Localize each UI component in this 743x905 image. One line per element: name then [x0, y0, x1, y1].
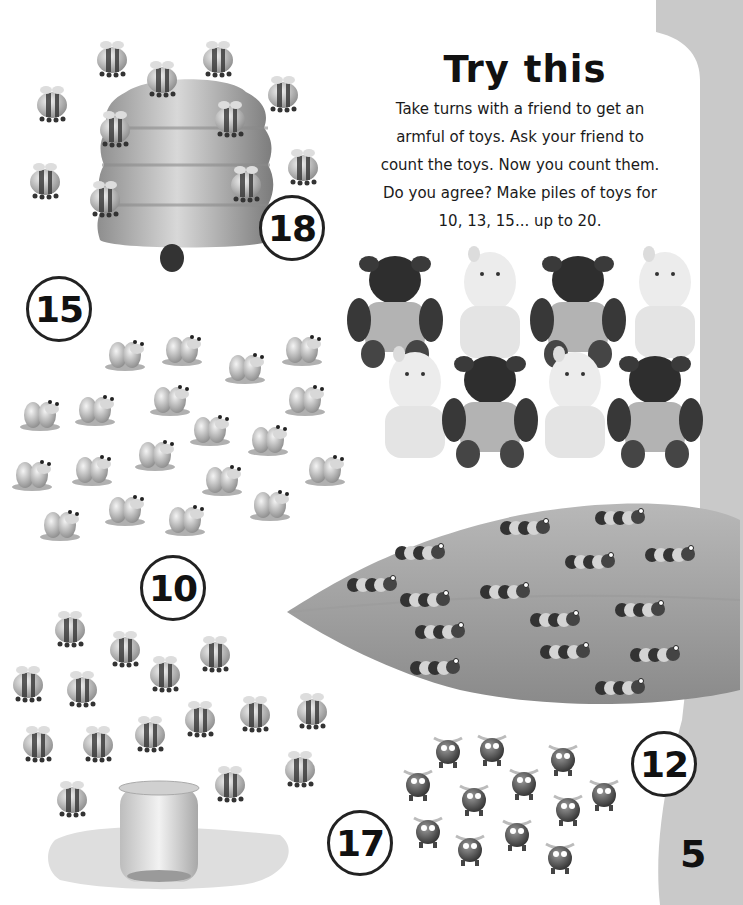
toys-group — [347, 246, 703, 468]
bug — [546, 844, 574, 874]
instruction-line: 10, 13, 15... up to 20. — [370, 207, 670, 235]
bee — [297, 693, 327, 730]
honey-jar — [120, 787, 198, 882]
frog — [72, 455, 112, 486]
try-this-title: Try this — [400, 48, 650, 91]
book-page: Try this Take turns with a friend to get… — [0, 0, 743, 905]
bee — [240, 696, 270, 733]
bee — [203, 41, 233, 78]
bug — [460, 786, 488, 816]
frog — [40, 510, 80, 541]
frog — [75, 395, 115, 426]
bug — [510, 770, 538, 800]
bee — [37, 86, 67, 123]
bee — [215, 766, 245, 803]
toy-cow — [530, 256, 626, 368]
frog — [190, 415, 230, 446]
count-badge-bugs: 17 — [327, 810, 393, 876]
bee — [67, 671, 97, 708]
frog — [105, 495, 145, 526]
count-badge-frogs: 15 — [26, 276, 92, 342]
instruction-line: Do you agree? Make piles of toys for — [370, 179, 670, 207]
frog — [20, 400, 60, 431]
bee — [268, 76, 298, 113]
instruction-line: Take turns with a friend to get an — [370, 95, 670, 123]
frog — [285, 385, 325, 416]
bee — [285, 751, 315, 788]
bee — [200, 636, 230, 673]
toy-hippo — [460, 246, 520, 358]
bug — [456, 836, 484, 866]
count-badge-bees-jar: 10 — [140, 555, 206, 621]
toy-hippo — [385, 346, 445, 458]
frog — [150, 385, 190, 416]
count-badge-caterpillars: 12 — [631, 731, 697, 797]
frog — [248, 425, 288, 456]
bug — [434, 738, 462, 768]
bee — [185, 701, 215, 738]
bee — [97, 41, 127, 78]
frog — [305, 455, 345, 486]
bee — [23, 726, 53, 763]
bee — [13, 666, 43, 703]
bee — [83, 726, 113, 763]
frog — [202, 465, 242, 496]
toy-cow — [607, 356, 703, 468]
bug — [590, 781, 618, 811]
beehive — [97, 79, 274, 247]
bee — [110, 631, 140, 668]
frog — [162, 335, 202, 366]
toy-hippo — [635, 246, 695, 358]
instruction-line: armful of toys. Ask your friend to — [370, 123, 670, 151]
bee — [150, 656, 180, 693]
frog — [282, 335, 322, 366]
bugs-group-17 — [404, 736, 618, 874]
try-this-instructions: Take turns with a friend to get an armfu… — [370, 95, 670, 235]
bug — [549, 746, 577, 776]
bug — [503, 821, 531, 851]
page-number: 5 — [680, 832, 706, 876]
frogs-group-15 — [12, 335, 345, 541]
frog — [165, 505, 205, 536]
count-badge-bees-beehive: 18 — [259, 195, 325, 261]
frog — [135, 440, 175, 471]
bug — [414, 818, 442, 848]
toy-cow — [442, 356, 538, 468]
frog — [225, 353, 265, 384]
bee — [135, 716, 165, 753]
bee — [57, 781, 87, 818]
frog — [12, 460, 52, 491]
bee — [30, 163, 60, 200]
bug — [554, 796, 582, 826]
bee — [147, 61, 177, 98]
beehive-hole — [160, 244, 184, 272]
bee — [55, 611, 85, 648]
bug — [478, 736, 506, 766]
frog — [250, 490, 290, 521]
bug — [404, 771, 432, 801]
instruction-line: count the toys. Now you count them. — [370, 151, 670, 179]
bee — [288, 149, 318, 186]
frog — [105, 340, 145, 371]
